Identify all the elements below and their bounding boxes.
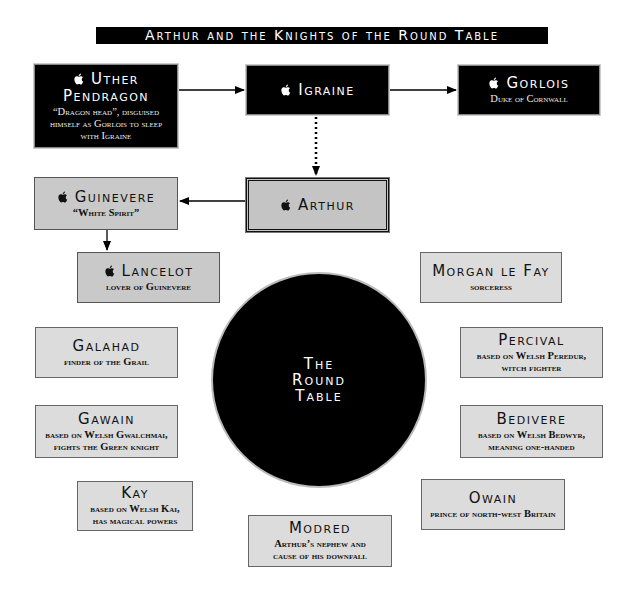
node-lancelot: Lancelot lover of Guinevere xyxy=(77,252,220,303)
node-igraine: Igraine xyxy=(246,65,389,115)
node-morgan-le-fay: Morgan le Fay sorceress xyxy=(420,252,562,303)
node-desc: Duke of Cornwall xyxy=(490,93,567,105)
node-name: Morgan le Fay xyxy=(432,263,550,280)
node-name-text: Igraine xyxy=(298,81,355,99)
node-name-text: Gorlois xyxy=(506,74,569,92)
label-line: Table xyxy=(295,387,342,405)
apple-icon xyxy=(57,191,68,203)
node-percival: Percival based on Welsh Peredur, witch f… xyxy=(460,327,603,378)
desc-line: “Dragon head”, disguised xyxy=(53,106,159,117)
apple-icon xyxy=(280,199,291,211)
node-galahad: Galahad finder of the Grail xyxy=(35,327,178,378)
node-desc: prince of north-west Britain xyxy=(430,508,555,520)
desc-line: himself as Gorlois to sleep xyxy=(50,118,162,129)
node-owain: Owain prince of north-west Britain xyxy=(421,479,565,530)
node-name-line2: Pendragon xyxy=(63,87,149,105)
apple-icon xyxy=(104,265,115,277)
node-name: Bedivere xyxy=(496,411,566,428)
desc-line: has magical powers xyxy=(93,515,178,526)
node-arthur: Arthur xyxy=(246,178,389,232)
node-desc: “White Spirit” xyxy=(73,207,139,219)
node-desc: based on Welsh Gwalchmai, fights the Gre… xyxy=(45,429,167,453)
node-name-text: Lancelot xyxy=(122,262,194,280)
node-name: Percival xyxy=(498,332,565,349)
node-name: Modred xyxy=(289,520,351,537)
desc-line: witch fighter xyxy=(502,362,562,373)
node-desc: sorceress xyxy=(470,281,512,293)
apple-icon xyxy=(73,73,84,85)
desc-line: with Igraine xyxy=(81,130,132,141)
desc-line: fights the Green knight xyxy=(54,441,160,452)
node-name-text: Arthur xyxy=(298,196,355,214)
apple-icon xyxy=(488,77,499,89)
node-desc: based on Welsh Bedwyr, meaning one-hande… xyxy=(478,429,585,453)
node-kay: Kay based on Welsh Kai, has magical powe… xyxy=(77,481,193,531)
node-gorlois: Gorlois Duke of Cornwall xyxy=(458,65,600,115)
desc-line: Arthur’s nephew and xyxy=(274,538,366,549)
round-table-label: The Round Table xyxy=(292,356,346,404)
node-desc: “Dragon head”, disguised himself as Gorl… xyxy=(50,106,162,142)
node-name: Arthur xyxy=(280,197,355,214)
desc-line: cause of his downfall xyxy=(273,550,367,561)
node-desc: based on Welsh Peredur, witch fighter xyxy=(477,350,586,374)
desc-line: based on Welsh Gwalchmai, xyxy=(45,429,167,440)
node-name: Galahad xyxy=(73,338,141,355)
node-name: Guinevere xyxy=(57,189,156,206)
node-uther-pendragon: Uther Pendragon “Dragon head”, disguised… xyxy=(34,64,178,148)
node-name: Uther Pendragon xyxy=(63,71,149,105)
apple-icon xyxy=(280,84,291,96)
node-modred: Modred Arthur’s nephew and cause of his … xyxy=(248,515,392,567)
node-name: Igraine xyxy=(280,82,355,99)
desc-line: based on Welsh Bedwyr, xyxy=(478,429,585,440)
node-gawain: Gawain based on Welsh Gwalchmai, fights … xyxy=(35,405,178,458)
node-name: Gorlois xyxy=(488,75,569,92)
desc-line: meaning one-handed xyxy=(488,441,574,452)
desc-line: based on Welsh Peredur, xyxy=(477,350,586,361)
node-name: Lancelot xyxy=(104,263,194,280)
node-desc: based on Welsh Kai, has magical powers xyxy=(90,503,179,527)
round-table: The Round Table xyxy=(211,272,427,488)
node-desc: Arthur’s nephew and cause of his downfal… xyxy=(273,538,367,562)
node-bedivere: Bedivere based on Welsh Bedwyr, meaning … xyxy=(460,405,603,458)
node-name-text: Guinevere xyxy=(75,188,156,206)
node-name: Gawain xyxy=(78,411,135,428)
node-desc: lover of Guinevere xyxy=(106,281,191,293)
node-guinevere: Guinevere “White Spirit” xyxy=(34,177,178,230)
node-desc: finder of the Grail xyxy=(64,356,149,368)
desc-line: based on Welsh Kai, xyxy=(90,503,179,514)
node-name-line1: Uther xyxy=(91,70,139,88)
node-name: Kay xyxy=(121,485,149,502)
node-name: Owain xyxy=(469,490,518,507)
